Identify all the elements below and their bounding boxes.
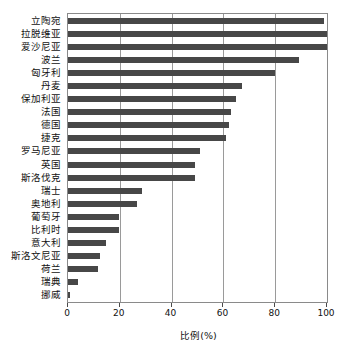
bar-row [68, 93, 327, 106]
bar [68, 148, 200, 154]
category-label: 拉脱维亚 [0, 26, 61, 40]
bar-row [68, 237, 327, 250]
bar-row [68, 276, 327, 289]
bar [68, 162, 195, 168]
bar-row [68, 250, 327, 263]
tick-mark [222, 303, 223, 307]
bar [68, 109, 231, 115]
category-label: 罗马尼亚 [0, 143, 61, 157]
tick-label: 20 [113, 308, 124, 318]
bar [68, 266, 98, 272]
category-label: 瑞士 [0, 183, 61, 197]
category-label: 德国 [0, 117, 61, 131]
bar-row [68, 210, 327, 223]
bar-row [68, 184, 327, 197]
category-label: 斯洛伐克 [0, 170, 61, 184]
tick-label: 100 [317, 308, 334, 318]
bar-row [68, 263, 327, 276]
bar-chart: 立陶宛拉脱维亚爱沙尼亚波兰匈牙利丹麦保加利亚法国德国捷克罗马尼亚英国斯洛伐克瑞士… [0, 0, 351, 349]
category-label: 丹麦 [0, 78, 61, 92]
tick-label: 0 [64, 308, 70, 318]
bar [68, 18, 324, 24]
bar [68, 31, 327, 37]
category-label: 荷兰 [0, 261, 61, 275]
x-axis-title: 比例(%) [0, 328, 351, 342]
bar [68, 214, 119, 220]
category-label: 波兰 [0, 52, 61, 66]
y-axis-category-labels: 立陶宛拉脱维亚爱沙尼亚波兰匈牙利丹麦保加利亚法国德国捷克罗马尼亚英国斯洛伐克瑞士… [0, 13, 64, 303]
tick-label: 80 [268, 308, 279, 318]
category-label: 捷克 [0, 130, 61, 144]
bar [68, 240, 106, 246]
bar [68, 227, 119, 233]
bar-row [68, 119, 327, 132]
bar [68, 201, 137, 207]
bar-row [68, 171, 327, 184]
category-label: 英国 [0, 157, 61, 171]
category-label: 比利时 [0, 222, 61, 236]
x-axis-title-label: 比例(%) [134, 330, 216, 341]
tick-mark [274, 303, 275, 307]
bar [68, 70, 275, 76]
bar [68, 135, 226, 141]
bar-row [68, 53, 327, 66]
tick-label: 40 [165, 308, 176, 318]
category-label: 爱沙尼亚 [0, 39, 61, 53]
bar [68, 57, 299, 63]
bar-row [68, 132, 327, 145]
category-label: 立陶宛 [0, 13, 61, 27]
category-label: 奥地利 [0, 196, 61, 210]
bar-row [68, 40, 327, 53]
category-label: 瑞典 [0, 274, 61, 288]
bar [68, 44, 327, 50]
bar-row [68, 66, 327, 79]
category-label: 意大利 [0, 235, 61, 249]
category-label: 匈牙利 [0, 65, 61, 79]
category-label: 法国 [0, 104, 61, 118]
bar [68, 253, 100, 259]
tick-mark [119, 303, 120, 307]
bar-row [68, 145, 327, 158]
tick-mark [67, 303, 68, 307]
bar-row [68, 158, 327, 171]
bar [68, 122, 229, 128]
category-label: 挪威 [0, 287, 61, 301]
bar [68, 279, 78, 285]
tick-label: 60 [217, 308, 228, 318]
category-label: 斯洛文尼亚 [0, 248, 61, 262]
bar [68, 83, 242, 89]
category-label: 保加利亚 [0, 91, 61, 105]
bar-row [68, 289, 327, 302]
bar-row [68, 79, 327, 92]
bar [68, 175, 195, 181]
plot-area [67, 13, 328, 303]
bar [68, 292, 70, 298]
tick-mark [326, 303, 327, 307]
tick-mark [171, 303, 172, 307]
x-axis-ticks: 020406080100 [67, 303, 328, 309]
bar-row [68, 14, 327, 27]
bar-row [68, 27, 327, 40]
bar-row [68, 223, 327, 236]
bar [68, 96, 236, 102]
category-label: 葡萄牙 [0, 209, 61, 223]
bar-row [68, 106, 327, 119]
bar-row [68, 197, 327, 210]
bar [68, 188, 142, 194]
